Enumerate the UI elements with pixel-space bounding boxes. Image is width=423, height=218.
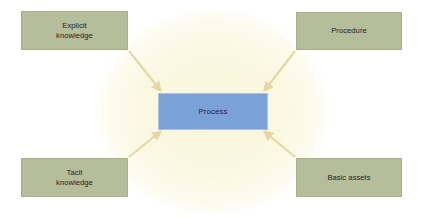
node-label-process: Process — [199, 107, 228, 117]
diagram-canvas: Explicit knowledge Procedure Tacit knowl… — [0, 0, 423, 218]
node-procedure[interactable]: Procedure — [296, 12, 402, 50]
node-basic-assets[interactable]: Basic assets — [296, 158, 402, 197]
node-label-tacit-knowledge: Tacit knowledge — [56, 168, 93, 187]
arrow-tacit-to-process — [129, 132, 161, 158]
node-explicit-knowledge[interactable]: Explicit knowledge — [21, 11, 128, 50]
arrow-procedure-to-process — [265, 51, 296, 91]
node-label-basic-assets: Basic assets — [327, 173, 370, 183]
arrow-explicit-to-process — [129, 51, 161, 91]
node-label-explicit-knowledge: Explicit knowledge — [56, 21, 93, 40]
arrow-basic-assets-to-process — [265, 132, 296, 158]
node-process[interactable]: Process — [158, 93, 268, 130]
node-tacit-knowledge[interactable]: Tacit knowledge — [21, 158, 128, 197]
node-label-procedure: Procedure — [331, 26, 367, 36]
